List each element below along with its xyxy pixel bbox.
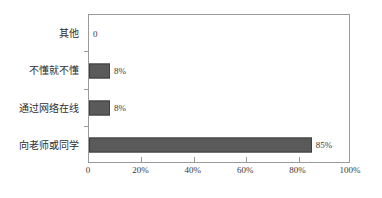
bar-chart: 其他不懂就不懂通过网络在线向老师或同学 08%8%85% 020%40%60%8… [0,0,382,198]
x-axis-tick-label: 0 [86,166,91,175]
y-axis-category-labels: 其他不懂就不懂通过网络在线向老师或同学 [0,14,84,163]
x-axis-tick-label: 80% [289,166,306,175]
plot-area: 08%8%85% [88,14,350,163]
x-axis-tick-label: 100% [340,166,361,175]
x-axis-tick [299,157,300,162]
bar [89,101,110,116]
y-axis-label: 向老师或同学 [0,126,84,163]
bar [89,138,312,153]
x-axis-tick [141,157,142,162]
x-axis-tick [194,157,195,162]
y-axis-label: 通过网络在线 [0,89,84,126]
y-axis-label: 其他 [0,14,84,51]
y-axis-label: 不懂就不懂 [0,51,84,88]
x-axis-tick-label: 20% [132,166,149,175]
x-axis-tick-label: 40% [185,166,202,175]
bar-row: 0 [89,15,349,52]
y-axis-tick [84,89,88,90]
bar-value-label: 8% [110,66,126,75]
bar-row: 85% [89,127,349,164]
bar-row: 8% [89,90,349,127]
bar-value-label: 85% [312,141,333,150]
bar-value-label: 8% [110,104,126,113]
y-axis-tick [84,51,88,52]
bar-row: 8% [89,52,349,89]
x-axis-tick-label: 60% [237,166,254,175]
x-axis-tick-labels: 020%40%60%80%100% [88,166,350,182]
x-axis-tick [246,157,247,162]
bar [89,63,110,78]
bar-value-label: 0 [89,29,98,38]
y-axis-tick [84,126,88,127]
